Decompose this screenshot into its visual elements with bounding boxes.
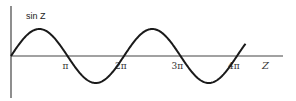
- x-tick-label: 3π: [172, 61, 184, 71]
- y-axis-label: sin Z: [26, 11, 46, 21]
- sine-chart: sin Z Z π2π3π4π: [0, 0, 296, 101]
- x-axis-label: Z: [261, 60, 270, 71]
- x-tick-label: π: [63, 61, 69, 71]
